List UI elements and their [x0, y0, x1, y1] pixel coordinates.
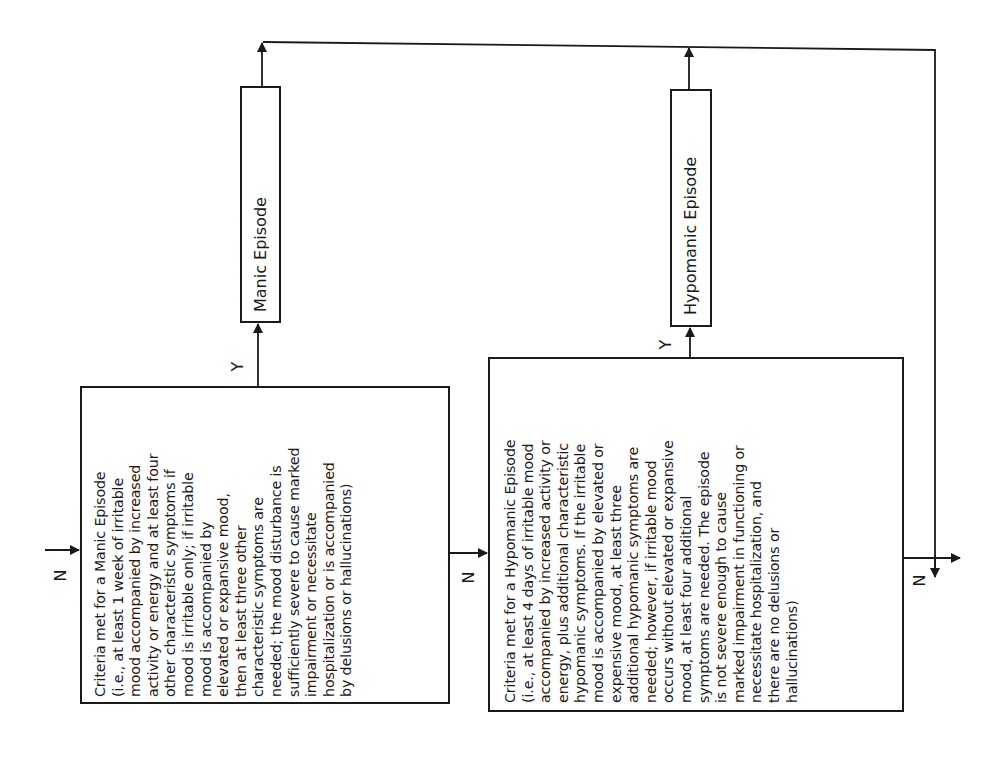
text-line: accompanied by increased activity or: [537, 373, 555, 703]
text-line: sufficiently severe to cause marked: [286, 397, 304, 697]
text-line: then at least three other: [233, 397, 251, 697]
text-line: (i.e., at least 4 days of irritable mood: [520, 373, 538, 703]
manic-episode-box: Manic Episode: [240, 86, 281, 323]
text-line: Criteria met for a Manic Episode: [92, 397, 110, 697]
manic-criteria-text: Criteria met for a Manic Episode (i.e., …: [92, 397, 356, 697]
text-line: mood is irritable only; if irritable: [180, 397, 198, 697]
text-line: there are no delusions or: [766, 373, 784, 703]
manic-criteria-box: Criteria met for a Manic Episode (i.e., …: [80, 386, 450, 704]
text-line: symptoms are needed. The episode: [696, 373, 714, 703]
hypomanic-yes-label: Y: [656, 340, 675, 350]
text-line: mood, at least four additional: [678, 373, 696, 703]
text-line: mood is accompanied by: [198, 397, 216, 697]
hypomanic-criteria-box: Criteria met for a Hypomanic Episode (i.…: [488, 357, 904, 712]
text-line: expensive mood, at least three: [608, 373, 626, 703]
text-line: energy, plus additional characteristic: [555, 373, 573, 703]
manic-yes-label: Y: [228, 362, 247, 372]
text-line: (i.e., at least 1 week of irritable: [110, 397, 128, 697]
text-line: impairment or necessitate: [303, 397, 321, 697]
text-line: mood is accompanied by elevated or: [590, 373, 608, 703]
text-line: occurs without elevated or expansive: [660, 373, 678, 703]
text-line: elevated or expansive mood,: [215, 397, 233, 697]
hypomanic-episode-box: Hypomanic Episode: [670, 89, 712, 327]
text-line: by delusions or hallucinations): [338, 397, 356, 697]
text-line: is not severe enough to cause: [713, 373, 731, 703]
text-line: mood accompanied by increased: [127, 397, 145, 697]
text-line: hallucinations): [784, 373, 802, 703]
hypomanic-episode-label: Hypomanic Episode: [681, 157, 700, 315]
hypomanic-criteria-text: Criteria met for a Hypomanic Episode (i.…: [502, 373, 801, 703]
text-line: other characteristic symptoms if: [162, 397, 180, 697]
text-line: activity or energy and at least four: [145, 397, 163, 697]
hypomanic-no-label: N: [910, 575, 929, 587]
manic-no-label: N: [459, 572, 478, 584]
text-line: additional hypomanic symptoms are: [625, 373, 643, 703]
text-line: hypomanic symptoms. If the irritable: [572, 373, 590, 703]
text-line: needed; the mood disturbance is: [268, 397, 286, 697]
text-line: marked impairment in functioning or: [731, 373, 749, 703]
text-line: characteristic symptoms are: [250, 397, 268, 697]
manic-episode-label: Manic Episode: [251, 197, 270, 312]
text-line: necessitate hospitalization, and: [748, 373, 766, 703]
text-line: Criteria met for a Hypomanic Episode: [502, 373, 520, 703]
text-line: hospitalization or is accompanied: [321, 397, 339, 697]
text-line: needed; however, if irritable mood: [643, 373, 661, 703]
entry-no-label: N: [51, 570, 70, 582]
